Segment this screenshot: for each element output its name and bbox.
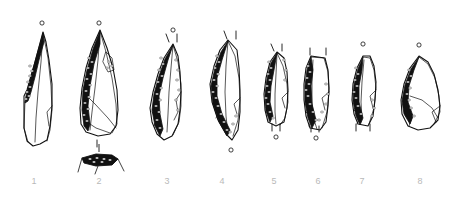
retouch-scar-2-8 <box>88 96 91 98</box>
retouch-scar-1-2 <box>31 70 34 72</box>
retouch-scar-8-8 <box>413 115 416 117</box>
retouch-scar-6-2 <box>309 71 312 73</box>
retouch-scar-7-8 <box>360 113 363 115</box>
retouch-scar-6-1 <box>307 65 310 67</box>
retouch-scar-8-3 <box>407 81 410 83</box>
retouch-scar-4-9 <box>217 105 220 107</box>
retouch-scar-2-5 <box>86 78 89 80</box>
retouch-scar-5-10 <box>272 117 275 119</box>
retouch-scar-6-12 <box>325 103 328 105</box>
lithic-figure-2 <box>78 21 124 174</box>
retouch-scar-3-4 <box>161 75 164 77</box>
retouch-scar-4-15 <box>229 131 232 133</box>
retouch-scar-5-6 <box>268 91 271 93</box>
retouch-scar-8-4 <box>409 87 412 89</box>
retouch-scar-2-12 <box>86 120 89 122</box>
retouch-scar-3-5 <box>157 81 160 83</box>
orientation-dot-7 <box>361 42 365 46</box>
retouch-scar-6-10 <box>325 83 328 85</box>
retouch-scar-7-5 <box>353 91 356 93</box>
retouch-scar-1-1 <box>29 65 32 67</box>
lithic-figure-7 <box>352 42 376 131</box>
retouch-scar-1-8 <box>25 98 28 100</box>
retouch-scar-3-14 <box>177 69 180 71</box>
retouch-scar-3-18 <box>177 109 180 111</box>
retouch-scar-3-13 <box>175 59 178 61</box>
retouch-scar-2-9 <box>84 102 87 104</box>
retouch-scar-3-8 <box>159 99 162 101</box>
retouch-scar-8-7 <box>410 107 413 109</box>
retouch-scar-2-1 <box>88 57 91 59</box>
retouch-scar-6-14 <box>318 119 321 121</box>
orientation-dot-2 <box>97 21 101 25</box>
retouch-scar-8-2 <box>410 75 413 77</box>
orientation-dot-1 <box>40 21 44 25</box>
retouch-scar-2-4 <box>90 73 93 75</box>
lithic-illustration-plate: 12345678 <box>0 0 454 202</box>
retouch-scar-3-16 <box>178 89 181 91</box>
figure-number-label-8: 8 <box>410 176 430 186</box>
retouch-scar-5-13 <box>284 79 287 81</box>
section-profile-scar-2-5 <box>92 161 95 163</box>
figure-number-label-6: 6 <box>308 176 328 186</box>
retouch-scar-4-7 <box>212 91 215 93</box>
retouch-scar-2-13 <box>108 61 111 63</box>
lithic-figure-5 <box>264 44 288 139</box>
retouch-scar-5-11 <box>283 59 286 61</box>
figure-number-label-3: 3 <box>157 176 177 186</box>
retouch-scar-6-8 <box>312 111 315 113</box>
retouch-scar-1-3 <box>29 75 32 77</box>
retouch-scar-7-4 <box>356 85 359 87</box>
retouch-scar-2-11 <box>83 114 86 116</box>
section-profile-scar-2-6 <box>100 161 103 163</box>
retouch-scar-3-17 <box>175 99 178 101</box>
tick-mark-5-1 <box>271 44 274 51</box>
retouch-scar-3-12 <box>159 127 162 129</box>
retouch-scar-6-5 <box>305 89 308 91</box>
retouch-scar-6-4 <box>308 83 311 85</box>
retouch-scar-4-11 <box>223 121 226 123</box>
retouch-scar-3-15 <box>176 79 179 81</box>
retouch-scar-8-6 <box>408 99 411 101</box>
retouch-scar-7-9 <box>371 99 374 101</box>
retouch-scar-7-2 <box>357 73 360 75</box>
retouch-scar-3-10 <box>158 111 161 113</box>
orientation-dot-4 <box>229 148 233 152</box>
retouch-scar-6-11 <box>327 93 330 95</box>
retouch-scar-3-11 <box>156 119 159 121</box>
retouch-scar-1-5 <box>29 86 32 88</box>
lithic-figure-1 <box>24 21 52 146</box>
retouch-scar-6-9 <box>315 119 318 121</box>
retouch-scar-4-12 <box>226 129 229 131</box>
tick-mark-4-1 <box>224 31 227 39</box>
retouch-scar-4-2 <box>218 61 221 63</box>
retouch-scar-7-7 <box>357 105 360 107</box>
retouch-scar-3-1 <box>160 57 163 59</box>
tick-mark-3-1 <box>166 34 169 42</box>
orientation-dot-8 <box>417 43 421 47</box>
retouch-scar-7-3 <box>354 79 357 81</box>
section-profile-scar-2-2 <box>95 157 98 159</box>
retouch-scar-1-6 <box>26 91 29 93</box>
retouch-scar-6-7 <box>309 103 312 105</box>
retouch-scar-4-10 <box>220 113 223 115</box>
retouch-scar-4-8 <box>215 97 218 99</box>
lithic-figure-8 <box>401 43 440 130</box>
retouch-scar-2-6 <box>89 84 92 86</box>
retouch-scar-7-10 <box>373 107 376 109</box>
retouch-scar-3-3 <box>158 69 161 71</box>
retouch-scar-3-2 <box>162 63 165 65</box>
orientation-dot-3 <box>171 28 175 32</box>
retouch-scar-5-8 <box>267 103 270 105</box>
retouch-scar-6-3 <box>306 77 309 79</box>
figure-number-label-7: 7 <box>352 176 372 186</box>
retouch-scar-2-7 <box>85 90 88 92</box>
section-profile-leg-2-3 <box>118 159 124 171</box>
retouch-scar-5-2 <box>270 67 273 69</box>
orientation-dot-5 <box>274 135 278 139</box>
retouch-scar-7-11 <box>371 115 374 117</box>
retouch-scar-2-15 <box>106 67 109 69</box>
retouch-scar-5-12 <box>285 69 288 71</box>
lithic-figure-3 <box>150 28 181 140</box>
retouch-scar-4-13 <box>235 115 238 117</box>
